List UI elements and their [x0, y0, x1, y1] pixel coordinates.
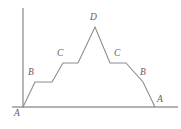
vertex-label-a-right: A: [157, 95, 163, 105]
vertex-label-c-left: C: [57, 49, 63, 59]
vertex-label-b-left: B: [28, 68, 34, 78]
vertex-label-c-right: C: [114, 49, 120, 59]
vertex-label-a-left: A: [14, 109, 20, 119]
stepped-profile-polyline: [23, 27, 155, 107]
figure-container: ABCDCBA: [0, 0, 181, 129]
vertex-label-b-right: B: [140, 68, 146, 78]
vertex-label-d-peak: D: [90, 13, 97, 23]
